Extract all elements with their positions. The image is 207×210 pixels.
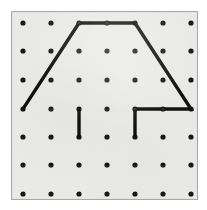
peg-r2-c5[interactable] [132, 48, 137, 53]
peg-r2-c7[interactable] [188, 48, 193, 53]
peg-r5-c4[interactable] [104, 134, 109, 139]
peg-r4-c4[interactable] [104, 106, 109, 111]
peg-r6-c6[interactable] [160, 162, 165, 167]
peg-r7-c1[interactable] [20, 191, 25, 196]
peg-r3-c2[interactable] [48, 77, 53, 82]
peg-r2-c6[interactable] [160, 48, 165, 53]
peg-r2-c1[interactable] [20, 48, 25, 53]
peg-r6-c5[interactable] [132, 162, 137, 167]
peg-under-band-r1-c4 [105, 21, 108, 24]
peg-r6-c3[interactable] [76, 162, 81, 167]
peg-r7-c4[interactable] [104, 191, 109, 196]
peg-r3-c5[interactable] [132, 77, 137, 82]
peg-r3-c1[interactable] [20, 77, 25, 82]
peg-grid-overlay [49, 21, 164, 110]
peg-r2-c4[interactable] [104, 48, 109, 53]
peg-r6-c1[interactable] [20, 162, 25, 167]
peg-under-band-r4-c2 [49, 107, 52, 110]
geoboard-canvas [12, 12, 199, 201]
peg-r1-c7[interactable] [188, 20, 193, 25]
peg-r7-c2[interactable] [48, 191, 53, 196]
peg-r2-c2[interactable] [48, 48, 53, 53]
peg-r5-c2[interactable] [48, 134, 53, 139]
peg-under-band-r1-c3 [77, 21, 80, 24]
geoboard-panel [11, 11, 198, 200]
peg-r3-c7[interactable] [188, 77, 193, 82]
peg-r7-c3[interactable] [76, 191, 81, 196]
geoboard-figure: Geoboard with arrow shape A square geobo… [0, 0, 207, 210]
peg-r3-c4[interactable] [104, 77, 109, 82]
peg-under-band-r4-c6 [161, 107, 164, 110]
peg-r1-c1[interactable] [20, 20, 25, 25]
peg-r5-c1[interactable] [20, 134, 25, 139]
peg-r2-c3[interactable] [76, 48, 81, 53]
peg-r7-c6[interactable] [160, 191, 165, 196]
peg-r6-c7[interactable] [188, 162, 193, 167]
peg-r3-c3[interactable] [76, 77, 81, 82]
peg-r6-c4[interactable] [104, 162, 109, 167]
peg-r6-c2[interactable] [48, 162, 53, 167]
peg-r5-c6[interactable] [160, 134, 165, 139]
peg-r1-c6[interactable] [160, 20, 165, 25]
peg-r7-c7[interactable] [188, 191, 193, 196]
peg-r1-c2[interactable] [48, 20, 53, 25]
peg-r5-c7[interactable] [188, 134, 193, 139]
peg-under-band-r4-c5 [133, 107, 136, 110]
peg-r3-c6[interactable] [160, 77, 165, 82]
peg-r7-c5[interactable] [132, 191, 137, 196]
